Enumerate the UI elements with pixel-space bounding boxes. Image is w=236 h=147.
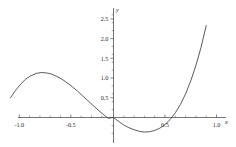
- y-tick-label-4: 2.5: [101, 15, 109, 22]
- y-tick-label-0: 0.5: [101, 94, 109, 101]
- x-tick-label-0: -1.0: [14, 121, 24, 128]
- plot-figure: -1.0 -0.5 0.5 1.0 0.5 1.0 1.5 2.0 2.5 x …: [0, 0, 236, 147]
- chart-canvas: -1.0 -0.5 0.5 1.0 0.5 1.0 1.5 2.0 2.5 x …: [0, 0, 236, 147]
- y-tick-label-2: 1.5: [101, 55, 109, 62]
- x-tick-label-3: 1.0: [213, 121, 221, 128]
- y-tick-label-3: 2.0: [101, 35, 109, 42]
- x-tick-label-1: -0.5: [66, 121, 76, 128]
- x-axis-label: x: [224, 118, 228, 125]
- y-tick-label-1: 1.0: [101, 74, 109, 81]
- y-axis-label: y: [115, 6, 119, 13]
- x-axis-major-ticks: [19, 114, 216, 117]
